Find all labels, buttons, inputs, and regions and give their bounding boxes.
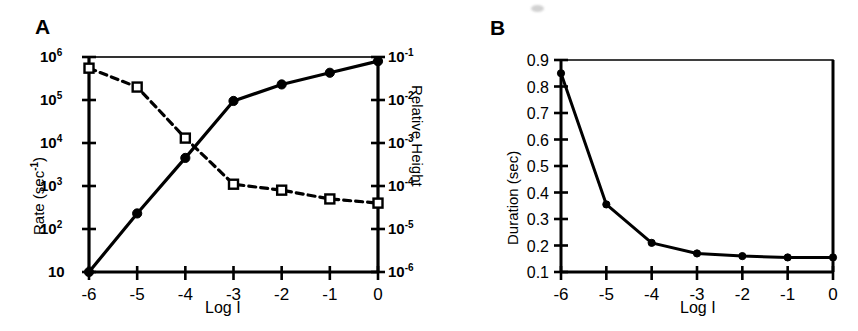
data-point-marker bbox=[181, 153, 190, 162]
figure-container: A Rate (sec-1) Relative Height Log I 106… bbox=[0, 0, 858, 331]
panel-a-xtick-label: -3 bbox=[226, 285, 241, 304]
panel-b-ytick-label: 0.8 bbox=[527, 79, 549, 96]
series-line-rate bbox=[89, 61, 378, 272]
data-point-marker bbox=[374, 199, 383, 208]
panel-b-xtick-label: 0 bbox=[828, 285, 837, 304]
panel-a-xtick-label: -1 bbox=[322, 285, 337, 304]
data-point-marker bbox=[277, 186, 286, 195]
data-point-marker bbox=[181, 134, 190, 143]
panel-a-xtick-label: 0 bbox=[373, 285, 382, 304]
data-point-marker bbox=[603, 201, 610, 208]
panel-b-xtick-label: -1 bbox=[780, 285, 795, 304]
panel-b-xtick-label: -3 bbox=[689, 285, 704, 304]
panel-a-xtick-label: -6 bbox=[81, 285, 96, 304]
panel-b-xtick-labels: -6-5-4-3-2-10 bbox=[553, 285, 837, 304]
plot-frame bbox=[561, 60, 833, 272]
data-point-marker bbox=[373, 57, 382, 66]
panel-b-ytick-label: 0.2 bbox=[527, 238, 549, 255]
panel-b-ytick-labels: 0.10.20.30.40.50.60.70.80.9 bbox=[527, 52, 549, 281]
panel-a-data bbox=[84, 57, 382, 277]
panel-b-xtick-label: -4 bbox=[644, 285, 659, 304]
panel-b-ytick-label: 0.4 bbox=[527, 185, 549, 202]
data-point-marker bbox=[739, 253, 746, 260]
panel-b-ytick-label: 0.3 bbox=[527, 211, 549, 228]
data-point-marker bbox=[693, 250, 700, 257]
data-point-marker bbox=[325, 68, 334, 77]
panel-a-axes bbox=[82, 57, 385, 280]
panel-b-ytick-label: 0.5 bbox=[527, 158, 549, 175]
data-point-marker bbox=[229, 96, 238, 105]
panel-b-ytick-label: 0.9 bbox=[527, 52, 549, 69]
data-point-marker bbox=[648, 239, 655, 246]
series-line-duration bbox=[561, 73, 833, 257]
data-point-marker bbox=[133, 83, 142, 92]
data-point-marker bbox=[829, 254, 836, 261]
plot-drawing-layer: -6-5-4-3-2-10 -6-5-4-3-2-10 0.10.20.30.4… bbox=[0, 0, 858, 331]
data-point-marker bbox=[557, 70, 564, 77]
panel-a-xtick-label: -5 bbox=[130, 285, 145, 304]
panel-b-ytick-label: 0.7 bbox=[527, 105, 549, 122]
panel-a-xtick-label: -2 bbox=[274, 285, 289, 304]
panel-b-xtick-label: -6 bbox=[553, 285, 568, 304]
panel-b-data bbox=[557, 70, 836, 261]
data-point-marker bbox=[277, 80, 286, 89]
data-point-marker bbox=[85, 64, 94, 73]
panel-a-xtick-label: -4 bbox=[178, 285, 193, 304]
panel-b-xtick-label: -2 bbox=[735, 285, 750, 304]
data-point-marker bbox=[784, 254, 791, 261]
data-point-marker bbox=[84, 267, 93, 276]
data-point-marker bbox=[325, 194, 334, 203]
data-point-marker bbox=[133, 209, 142, 218]
panel-a-xtick-labels: -6-5-4-3-2-10 bbox=[81, 285, 382, 304]
panel-b-xtick-label: -5 bbox=[599, 285, 614, 304]
panel-b-ytick-label: 0.6 bbox=[527, 132, 549, 149]
data-point-marker bbox=[229, 180, 238, 189]
panel-b-ytick-label: 0.1 bbox=[527, 264, 549, 281]
